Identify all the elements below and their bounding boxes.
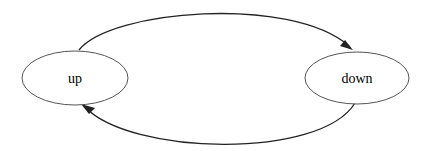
arrowhead-icon bbox=[340, 40, 353, 50]
edge-down-to-up bbox=[81, 103, 355, 144]
edge-up-to-down bbox=[79, 14, 353, 50]
node-down[interactable]: down bbox=[305, 52, 409, 104]
state-diagram: up down bbox=[0, 0, 431, 151]
node-up[interactable]: up bbox=[22, 51, 128, 105]
arrowhead-icon bbox=[81, 104, 95, 114]
node-down-label: down bbox=[341, 71, 372, 86]
node-up-label: up bbox=[68, 71, 82, 86]
